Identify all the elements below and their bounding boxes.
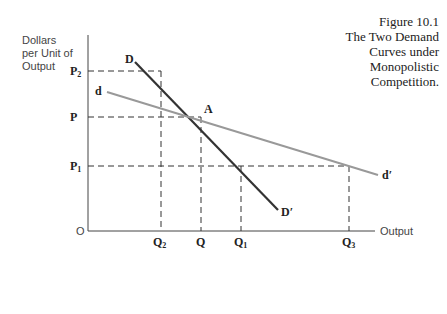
origin-label: O: [76, 225, 85, 237]
quantity-label-q2: Q2: [153, 235, 166, 250]
D-end-label: D′: [281, 205, 293, 219]
demand-diagram: D D′ d d′ A P2 P P1 O Q2 Q Q1 Q3 Output: [0, 0, 447, 314]
price-label-p2: P2: [70, 64, 81, 79]
d-curve: [107, 92, 378, 175]
d-start-label: d: [95, 84, 102, 98]
D-start-label: D: [125, 52, 134, 66]
quantity-label-q3: Q3: [342, 235, 355, 250]
intersection-label-A: A: [204, 102, 213, 116]
x-axis-label: Output: [380, 225, 413, 237]
price-label-p: P: [70, 110, 77, 124]
quantity-label-q1: Q1: [234, 235, 247, 250]
D-curve: [135, 62, 278, 210]
dashed-guides: [88, 71, 349, 231]
price-label-p1: P1: [70, 159, 81, 174]
d-end-label: d′: [382, 168, 392, 182]
quantity-label-q: Q: [196, 235, 205, 249]
